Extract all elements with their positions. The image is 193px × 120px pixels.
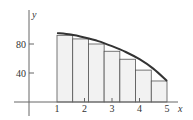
y-tick-label: 80 [16,39,26,50]
riemann-rectangle [104,51,120,102]
y-axis-label: y [31,9,37,20]
riemann-rectangle [73,39,89,102]
riemann-rectangle [151,81,167,102]
x-tick-label: 4 [137,103,142,114]
y-ticks: 4080 [16,39,34,79]
riemann-rectangle [120,59,136,102]
x-tick-label: 3 [110,103,115,114]
riemann-rectangle [57,35,73,102]
riemann-rectangle [88,44,104,102]
x-tick-label: 1 [55,103,60,114]
riemann-rectangle [136,70,152,102]
x-tick-label: 5 [165,103,170,114]
y-tick-label: 40 [16,68,26,79]
riemann-sum-chart: 4080 12345 y x [0,0,193,120]
x-tick-label: 2 [82,103,87,114]
x-axis-label: x [177,103,183,114]
